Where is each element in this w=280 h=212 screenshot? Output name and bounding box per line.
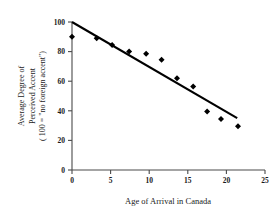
x-tick-label: 25	[261, 176, 269, 185]
y-tick-label: 60	[58, 77, 66, 86]
y-tick-label: 20	[58, 136, 66, 145]
x-tick-label: 5	[109, 176, 113, 185]
y-tick-label-group: 020406080100	[54, 18, 66, 175]
data-point-marker	[69, 34, 75, 40]
y-axis-title-line: Average Degree of	[17, 66, 26, 127]
chart-canvas: 020406080100 0510152025 Average Degree o…	[0, 0, 280, 212]
data-point-marker	[204, 109, 210, 115]
x-tick-label: 0	[70, 176, 74, 185]
y-tick-group	[68, 22, 72, 170]
axes-group	[72, 22, 265, 170]
data-point-group	[69, 34, 241, 130]
x-tick-label: 10	[145, 176, 153, 185]
y-tick-label: 100	[54, 18, 66, 27]
accent-age-scatter-figure: 020406080100 0510152025 Average Degree o…	[0, 0, 280, 212]
x-tick-group	[72, 170, 265, 174]
data-point-marker	[174, 75, 180, 81]
y-axis-title: Average Degree ofPerceived Accent( 100 =…	[17, 51, 47, 141]
data-point-marker	[218, 116, 224, 122]
y-tick-label: 80	[58, 47, 66, 56]
y-axis-title-line: Perceived Accent	[28, 67, 37, 124]
x-tick-label: 20	[223, 176, 231, 185]
x-tick-label-group: 0510152025	[70, 176, 269, 185]
y-tick-label: 0	[61, 166, 65, 175]
data-point-marker	[143, 51, 149, 57]
x-axis-title: Age of Arrival in Canada	[125, 196, 211, 206]
data-point-marker	[159, 57, 165, 63]
data-point-marker	[235, 123, 241, 129]
y-tick-label: 40	[58, 107, 66, 116]
x-tick-label: 15	[184, 176, 192, 185]
y-axis-title-line: ( 100 = "no foreign accent")	[38, 51, 47, 141]
data-point-marker	[190, 83, 196, 89]
